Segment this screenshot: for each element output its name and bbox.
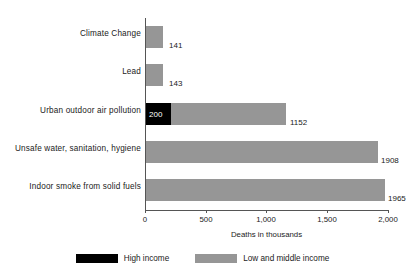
- bar-group: [146, 26, 163, 48]
- legend-swatch-icon: [76, 254, 118, 263]
- bar-row: Indoor smoke from solid fuels 1965: [0, 171, 405, 209]
- category-label: Climate Change: [80, 29, 141, 38]
- bar-value-label: 1965: [388, 194, 406, 203]
- x-axis-title: Deaths in thousands: [145, 230, 388, 239]
- bar-value-label: 143: [169, 79, 182, 88]
- x-axis-tick-label: 2,000: [378, 215, 398, 224]
- x-axis-tick: [206, 210, 207, 213]
- category-label: Unsafe water, sanitation, hygiene: [15, 144, 141, 153]
- bar-segment-low-middle-income: [146, 26, 163, 48]
- x-axis-tick-label: 1,500: [317, 215, 337, 224]
- x-axis-tick: [388, 210, 389, 213]
- bar-value-label: 141: [169, 41, 182, 50]
- legend-label: High income: [124, 254, 170, 263]
- bar-group: [146, 64, 163, 86]
- bar-segment-high-income: 200: [146, 103, 171, 125]
- bar-segment-low-middle-income: [171, 103, 286, 125]
- category-label: Indoor smoke from solid fuels: [29, 182, 141, 191]
- bar-segment-low-middle-income: [146, 64, 163, 86]
- bar-group: [146, 179, 385, 201]
- chart-legend: High income Low and middle income: [0, 254, 405, 263]
- legend-item-low-middle-income: Low and middle income: [195, 254, 329, 263]
- x-axis-tick-label: 0: [143, 215, 147, 224]
- bar-segment-low-middle-income: [146, 141, 378, 163]
- chart-title: Annual deaths from environmental risks i…: [0, 0, 405, 1]
- legend-swatch-icon: [195, 254, 237, 263]
- category-label: Lead: [122, 67, 141, 76]
- category-label: Urban outdoor air pollution: [40, 106, 141, 115]
- bar-row: Lead 143: [0, 56, 405, 94]
- legend-label: Low and middle income: [243, 254, 329, 263]
- plot-area: Climate Change 141 Lead 143 Urban outdoo…: [0, 18, 405, 210]
- bar-row: Unsafe water, sanitation, hygiene 1908: [0, 133, 405, 171]
- x-axis-tick: [266, 210, 267, 213]
- bar-group: [146, 141, 378, 163]
- legend-item-high-income: High income: [76, 254, 170, 263]
- x-axis-tick-label: 500: [199, 215, 212, 224]
- x-axis-tick: [145, 210, 146, 213]
- x-axis-tick-label: 1,000: [256, 215, 276, 224]
- bar-row: Climate Change 141: [0, 18, 405, 56]
- bar-value-label: 1152: [290, 118, 307, 127]
- bar-row: Urban outdoor air pollution 200 1152: [0, 95, 405, 133]
- bar-group: 200: [146, 103, 286, 125]
- bar-value-label: 1908: [381, 156, 399, 165]
- bar-segment-value-label: 200: [149, 110, 162, 119]
- x-axis-tick: [327, 210, 328, 213]
- bar-segment-low-middle-income: [146, 179, 385, 201]
